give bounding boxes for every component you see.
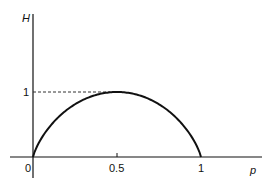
entropy-curve [33,92,201,157]
y-axis-label: H [22,13,30,24]
chart-canvas [0,0,270,189]
x-tick-label-0: 0 [25,163,31,174]
y-tick-label-1: 1 [23,87,29,98]
x-tick-label-half: 0.5 [109,163,124,174]
x-axis-label: p [250,165,256,176]
x-tick-label-1: 1 [198,163,204,174]
